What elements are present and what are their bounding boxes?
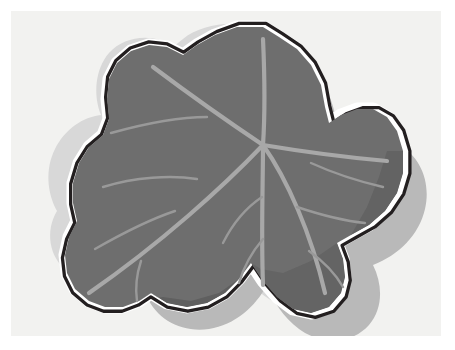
leaf-illustration-svg: [11, 11, 441, 336]
page-root: A stylized five-lobed ivy leaf drawn in …: [0, 0, 455, 350]
artwork-title: Ivy Leaf Illustration: [0, 0, 1, 1]
canvas-background: [11, 11, 441, 336]
leaf-illustration: [11, 11, 441, 336]
artwork-alt-text: A stylized five-lobed ivy leaf drawn in …: [0, 0, 1, 1]
